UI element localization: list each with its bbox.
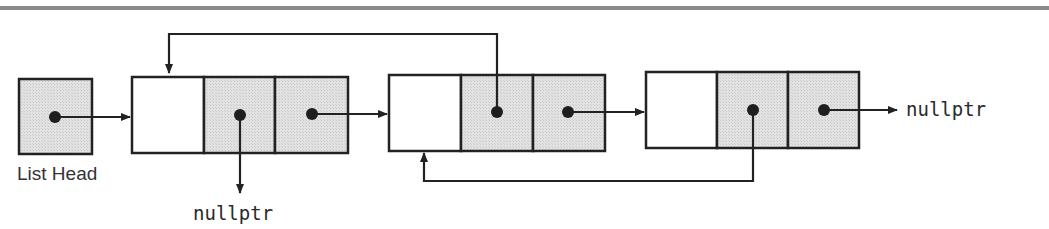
nullptr-label-bottom: nullptr <box>193 202 273 224</box>
node-1-data-cell <box>132 77 204 153</box>
node-1-prev-dot <box>234 109 246 121</box>
nullptr-label-right: nullptr <box>906 98 986 120</box>
node-1-next-dot <box>306 108 318 120</box>
node-3-next-dot <box>818 104 830 116</box>
node-2-prev-dot <box>491 106 503 118</box>
node-2-next-dot <box>562 106 574 118</box>
list-head-label: List Head <box>17 163 97 184</box>
linked-list-diagram: List Head nullptr nullptr <box>0 0 1049 229</box>
node-3-prev-dot <box>747 104 759 116</box>
node-3-data-cell <box>646 72 717 148</box>
head-pointer-dot <box>49 111 61 123</box>
node-2-data-cell <box>389 75 461 151</box>
top-rule <box>0 6 1049 10</box>
